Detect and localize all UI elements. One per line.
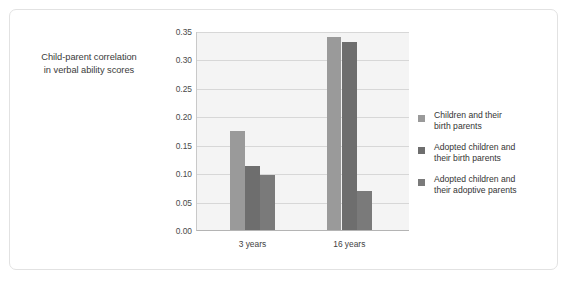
bar xyxy=(260,175,275,230)
y-axis-tick-label: 0.20 xyxy=(176,112,192,122)
legend-label: Adopted children andtheir adoptive paren… xyxy=(434,174,558,197)
legend-label-line-1: Children and their xyxy=(434,110,558,121)
legend-label: Adopted children andtheir birth parents xyxy=(434,142,558,165)
y-axis-title-line-2: in verbal ability scores xyxy=(18,64,160,77)
bar xyxy=(245,166,260,230)
legend-label: Children and theirbirth parents xyxy=(434,110,558,133)
bar xyxy=(357,191,372,230)
legend-item: Adopted children andtheir adoptive paren… xyxy=(418,174,558,197)
gridline xyxy=(197,32,409,33)
y-axis-tick-label: 0.00 xyxy=(176,226,192,236)
y-axis-tick-label: 0.10 xyxy=(176,169,192,179)
legend-label-line-1: Adopted children and xyxy=(434,174,558,185)
legend-swatch xyxy=(418,115,425,122)
bar xyxy=(342,42,357,230)
y-axis-tick-label: 0.25 xyxy=(176,84,192,94)
y-axis-tick-label: 0.15 xyxy=(176,141,192,151)
gridline xyxy=(197,203,409,204)
plot-inner: 0.000.050.100.150.200.250.300.353 years1… xyxy=(197,32,409,230)
legend-item: Adopted children andtheir birth parents xyxy=(418,142,558,165)
y-axis-tick-label: 0.30 xyxy=(176,55,192,65)
chart-figure: Child-parent correlation in verbal abili… xyxy=(0,0,569,281)
bar xyxy=(327,37,342,230)
gridline xyxy=(197,89,409,90)
legend-label-line-2: birth parents xyxy=(434,121,558,132)
y-axis-tick-label: 0.35 xyxy=(176,27,192,37)
gridline xyxy=(197,60,409,61)
legend-label-line-2: their adoptive parents xyxy=(434,185,558,196)
x-axis-tick-label: 3 years xyxy=(239,239,266,249)
legend-item: Children and theirbirth parents xyxy=(418,110,558,133)
legend-label-line-2: their birth parents xyxy=(434,153,558,164)
gridline xyxy=(197,146,409,147)
chart-legend: Children and theirbirth parentsAdopted c… xyxy=(418,110,558,205)
bar xyxy=(230,131,245,231)
y-axis-title-line-1: Child-parent correlation xyxy=(18,51,160,64)
legend-swatch xyxy=(418,179,425,186)
plot-area: 0.000.050.100.150.200.250.300.353 years1… xyxy=(196,32,409,231)
gridline xyxy=(197,174,409,175)
legend-swatch xyxy=(418,147,425,154)
y-axis-title: Child-parent correlation in verbal abili… xyxy=(18,51,160,76)
x-axis-tick-label: 16 years xyxy=(333,239,365,249)
gridline xyxy=(197,117,409,118)
legend-label-line-1: Adopted children and xyxy=(434,142,558,153)
y-axis-tick-label: 0.05 xyxy=(176,198,192,208)
